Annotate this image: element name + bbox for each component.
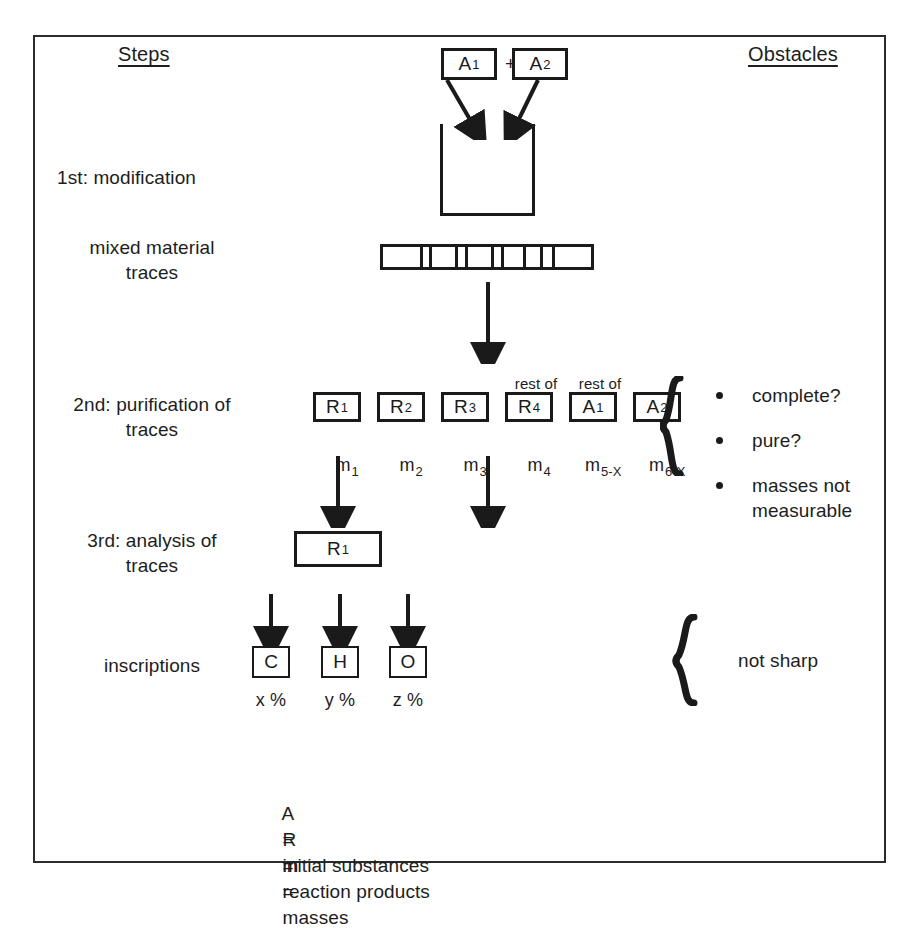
mass-label-m4: m4 — [507, 428, 551, 509]
mass-subscript: 2 — [415, 464, 423, 479]
input-box-a2-symbol: A — [530, 53, 543, 75]
step-label-mixed-material-line1: mixed material — [90, 235, 215, 260]
obstacles-column-header: Obstacles — [748, 42, 838, 67]
purification-box-r1-symbol: R — [326, 396, 340, 418]
legend-eq: = — [283, 881, 294, 902]
purification-box-a1-symbol: A — [583, 396, 596, 418]
mass-label-m2: m2 — [379, 428, 423, 509]
beaker-vessel — [440, 124, 535, 216]
bar-segment — [543, 247, 555, 267]
purification-box-r3-subscript: 3 — [468, 400, 476, 415]
purification-box-r3: R3 — [441, 392, 489, 422]
inscription-box-c: C — [252, 646, 290, 678]
inscription-box-h: H — [321, 646, 359, 678]
step-label-3rd-analysis-line1: 3rd: analysis of — [87, 528, 216, 553]
inscription-box-h-symbol: H — [333, 651, 347, 673]
obstacle-text-masses-not: masses not — [752, 473, 850, 498]
inscription-box-o: O — [389, 646, 427, 678]
step-label-inscriptions: inscriptions — [104, 653, 200, 678]
obstacle-bullet-3-icon — [716, 482, 723, 489]
step-label-1st-modification: 1st: modification — [57, 165, 196, 190]
legend-key-m: m — [283, 855, 299, 876]
analysis-to-inscriptions-arrows — [252, 594, 452, 646]
mass-symbol: m — [527, 455, 542, 475]
purification-box-r1: R1 — [313, 392, 361, 422]
mass-subscript: 4 — [543, 464, 551, 479]
purification-box-r3-symbol: R — [454, 396, 468, 418]
purification-box-r4-subscript: 4 — [532, 400, 540, 415]
bar-segment — [504, 247, 527, 267]
obstacle-text-pure: pure? — [752, 428, 801, 453]
obstacle-text-not-sharp: not sharp — [738, 648, 818, 673]
mass-symbol: m — [585, 455, 600, 475]
bar-segment — [458, 247, 468, 267]
bar-segment — [432, 247, 458, 267]
mass-label-m5x: m5-X — [564, 428, 621, 509]
bar-to-purification-arrow — [470, 282, 510, 364]
analysis-box-r1-symbol: R — [327, 538, 341, 560]
step-label-2nd-purification-line2: traces — [126, 417, 178, 442]
mass-subscript: 5-X — [600, 464, 622, 479]
m1-to-analysis-arrow — [320, 456, 360, 528]
bar-segment — [468, 247, 494, 267]
purification-box-r4: R4 — [505, 392, 553, 422]
purification-box-r2: R2 — [377, 392, 425, 422]
bar-segment — [526, 247, 543, 267]
purification-box-r1-subscript: 1 — [340, 400, 348, 415]
input-box-a2: A2 — [512, 48, 568, 80]
inscription-percent-z: z % — [393, 688, 423, 713]
steps-column-header: Steps — [118, 42, 170, 67]
input-box-a1-subscript: 1 — [471, 57, 479, 72]
purification-downstream-arrow — [470, 456, 510, 528]
legend-line-m: m = masses — [261, 827, 349, 928]
legend-value-m: masses — [283, 907, 349, 928]
bar-segment — [494, 247, 503, 267]
inscription-box-c-symbol: C — [264, 651, 278, 673]
purification-box-a1-rest: A1 — [569, 392, 617, 422]
obstacles-brace-upper-icon — [660, 376, 700, 476]
input-box-a1-symbol: A — [459, 53, 472, 75]
obstacles-brace-lower-icon — [672, 614, 712, 706]
input-box-a2-subscript: 2 — [542, 57, 550, 72]
inscription-box-o-symbol: O — [401, 651, 416, 673]
obstacle-bullet-1-icon — [716, 392, 723, 399]
bar-segment — [555, 247, 591, 267]
purification-box-r4-symbol: R — [518, 396, 532, 418]
bar-segment — [423, 247, 431, 267]
obstacle-text-complete: complete? — [752, 383, 841, 408]
analysis-box-r1-subscript: 1 — [341, 542, 349, 557]
purification-box-r2-subscript: 2 — [404, 400, 412, 415]
step-label-3rd-analysis-line2: traces — [126, 553, 178, 578]
obstacle-text-measurable: measurable — [752, 498, 852, 523]
purification-box-a2-symbol: A — [647, 396, 660, 418]
step-label-mixed-material-line2: traces — [126, 260, 178, 285]
analysis-box-r1: R1 — [294, 531, 382, 567]
step-label-2nd-purification-line1: 2nd: purification of — [73, 392, 230, 417]
bar-segment — [383, 247, 423, 267]
input-box-a1: A1 — [441, 48, 497, 80]
purification-box-r2-symbol: R — [390, 396, 404, 418]
purification-box-a1-subscript: 1 — [595, 400, 603, 415]
mass-symbol: m — [399, 455, 414, 475]
inscription-percent-y: y % — [325, 688, 355, 713]
inscription-percent-x: x % — [256, 688, 286, 713]
obstacle-bullet-2-icon — [716, 437, 723, 444]
mixed-material-bar — [380, 244, 594, 270]
